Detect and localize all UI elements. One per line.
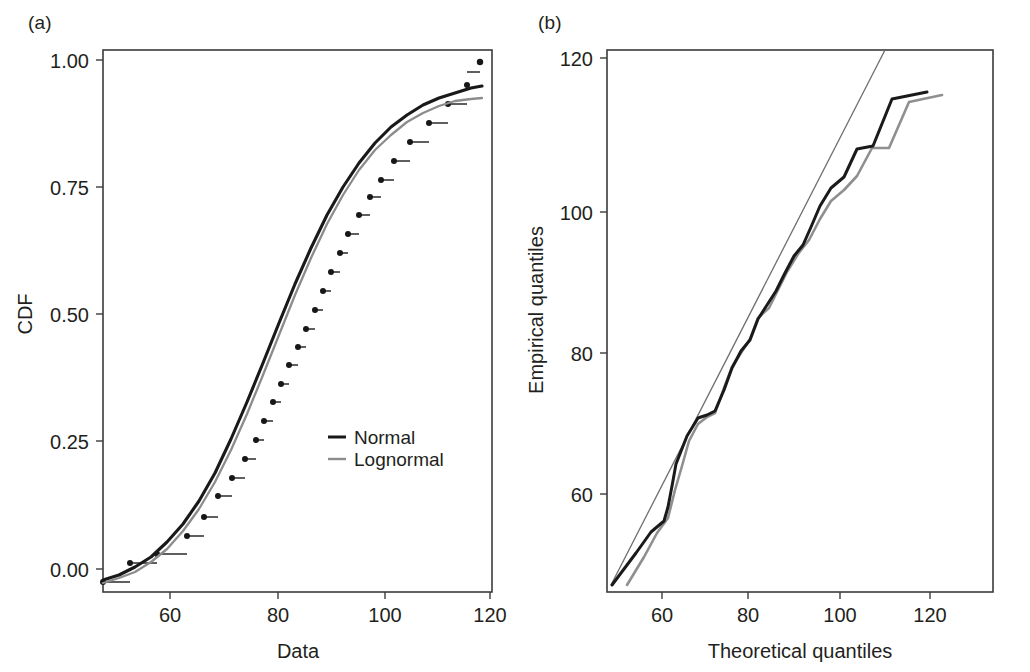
qq-x-axis-title: Theoretical quantiles [708,640,893,662]
cdf-xtick-2: 100 [368,604,401,626]
qq-plot-svg: 60 80 100 120 60 80 100 120 Theoretical … [515,0,1030,672]
cdf-ytick-2: 0.50 [50,304,89,326]
qq-xtick-1: 80 [737,604,759,626]
cdf-xtick-3: 120 [473,604,506,626]
cdf-ytick-3: 0.75 [50,177,89,199]
cdf-ytick-1: 0.25 [50,431,89,453]
cdf-ytick-4: 1.00 [50,50,89,72]
qq-xtick-0: 60 [651,604,673,626]
qq-y-tick-labels: 60 80 100 120 [560,48,593,506]
qq-plot-frame [607,50,993,592]
legend-label-normal: Normal [354,427,415,448]
qq-ytick-2: 100 [560,202,593,224]
cdf-xtick-0: 60 [159,604,181,626]
qq-xtick-2: 100 [823,604,856,626]
cdf-ytick-0: 0.00 [50,559,89,581]
qq-x-tick-labels: 60 80 100 120 [651,604,947,626]
cdf-y-tick-labels: 0.00 0.25 0.50 0.75 1.00 [50,50,89,581]
cdf-panel: (a) [0,0,515,672]
figure-root: (a) [0,0,1030,672]
cdf-plot-svg: 60 80 100 120 0.00 0.25 0.50 0.75 1.00 D… [0,0,515,672]
qq-xtick-3: 120 [913,604,946,626]
qq-ytick-1: 80 [571,343,593,365]
panel-label-b: (b) [538,12,562,34]
qq-ytick-3: 120 [560,48,593,70]
qq-y-axis-title: Empirical quantiles [525,226,547,394]
panel-label-a: (a) [28,12,52,34]
legend-label-lognormal: Lognormal [354,449,444,470]
qq-panel: (b) [515,0,1030,672]
cdf-x-tick-labels: 60 80 100 120 [159,604,507,626]
qq-ytick-0: 60 [571,484,593,506]
cdf-x-axis-title: Data [277,640,320,662]
cdf-plot-frame [103,50,492,592]
cdf-xtick-1: 80 [267,604,289,626]
cdf-y-axis-title: CDF [14,293,36,334]
